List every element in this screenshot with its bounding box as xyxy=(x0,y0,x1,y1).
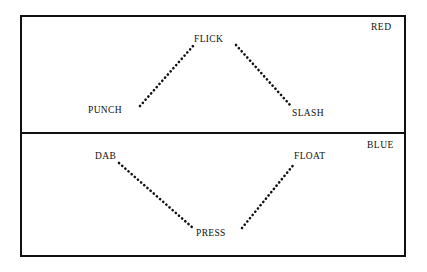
node-label-flick: FLICK xyxy=(194,35,223,45)
diagram-canvas: PUNCH FLICK SLASH RED DAB FLOAT PRESS BL… xyxy=(0,0,427,272)
panel-label-blue: BLUE xyxy=(367,141,394,151)
node-label-float: FLOAT xyxy=(294,152,325,162)
outer-border-rect xyxy=(21,16,405,256)
node-label-press: PRESS xyxy=(196,229,226,239)
node-label-slash: SLASH xyxy=(292,109,324,119)
panel-label-red: RED xyxy=(371,23,392,33)
node-label-punch: PUNCH xyxy=(88,106,122,116)
node-label-dab: DAB xyxy=(95,152,116,162)
